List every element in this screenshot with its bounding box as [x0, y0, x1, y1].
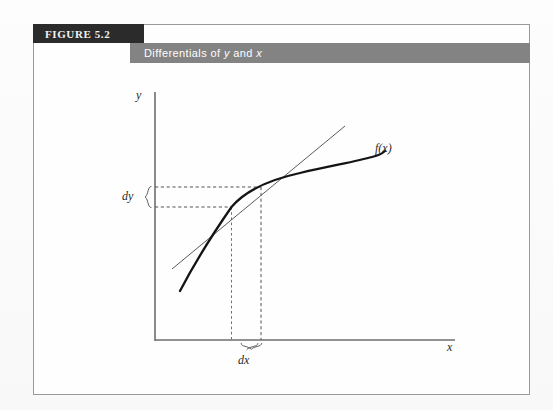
dx-label: dx: [238, 353, 249, 368]
y-axis-label: y: [136, 88, 141, 103]
figure-frame: [33, 24, 530, 395]
figure-number-badge: FIGURE 5.2: [33, 24, 144, 43]
figure-number-label: FIGURE 5.2: [45, 28, 110, 40]
figure-title-label: Differentials of y and x: [144, 47, 262, 59]
title-variable-x: x: [256, 47, 262, 59]
dy-label: dy: [122, 189, 133, 204]
title-middle: and: [230, 47, 256, 59]
x-axis-label: x: [447, 340, 452, 355]
title-prefix: Differentials of: [144, 47, 224, 59]
curve-label: f(x): [375, 141, 392, 156]
figure-title-bar: Differentials of y and x: [130, 43, 530, 63]
